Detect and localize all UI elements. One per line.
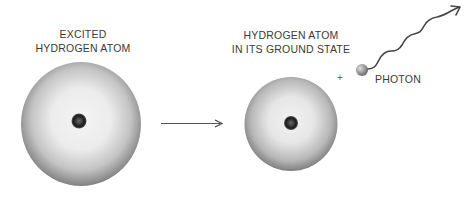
excited-hydrogen-atom xyxy=(21,62,141,186)
excited-atom-label: EXCITED HYDROGEN ATOM xyxy=(23,27,143,55)
plus-operator: + xyxy=(335,71,345,85)
nucleus-icon xyxy=(284,116,298,130)
photon-label: PHOTON xyxy=(375,72,421,86)
photon-wave-arrow xyxy=(368,6,460,69)
photon-icon xyxy=(356,64,368,76)
ground-state-label-line1: HYDROGEN ATOM xyxy=(226,28,356,42)
ground-state-hydrogen-atom xyxy=(245,77,338,171)
ground-state-label-line2: IN ITS GROUND STATE xyxy=(226,42,356,56)
nucleus-icon xyxy=(72,114,87,129)
ground-state-atom-label: HYDROGEN ATOM IN ITS GROUND STATE xyxy=(226,28,356,56)
excited-atom-label-line1: EXCITED xyxy=(23,27,143,41)
excited-atom-label-line2: HYDROGEN ATOM xyxy=(23,41,143,55)
reaction-arrow xyxy=(161,120,222,127)
